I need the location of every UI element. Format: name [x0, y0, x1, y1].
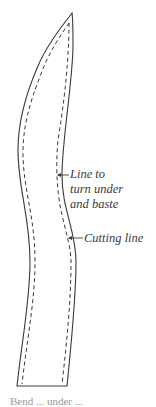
- turn-under-label-line-2: turn under: [70, 182, 123, 197]
- turn-under-label: Line to turn under and baste: [70, 167, 123, 212]
- cutting-line-leader-arrow: [68, 236, 83, 240]
- figure-caption-partial: Bend ... under ...: [10, 395, 83, 407]
- turn-under-dashed-line-left: [22, 23, 69, 384]
- turn-under-label-line-3: and baste: [70, 197, 123, 212]
- turn-under-leader-arrow: [57, 173, 69, 177]
- turn-under-label-line-1: Line to: [70, 167, 123, 182]
- cutting-line-label: Cutting line: [84, 231, 143, 246]
- turn-under-dashed-line-right: [57, 23, 71, 384]
